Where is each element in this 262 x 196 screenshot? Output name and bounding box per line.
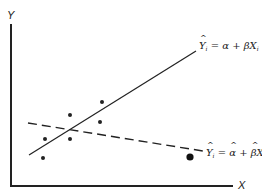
dashed-regression-line: [28, 123, 203, 151]
data-point: [68, 113, 72, 117]
y-hat: Y: [206, 148, 213, 158]
beta-hat: β: [251, 148, 257, 158]
regression-diagram: [0, 0, 262, 196]
dashed-line-equation: Yi = α + βXi: [206, 148, 262, 159]
outlier-point: [186, 153, 193, 160]
alpha-hat: α: [229, 148, 236, 158]
data-points: [41, 100, 194, 161]
y-axis-label: Y: [7, 10, 14, 21]
data-point: [41, 156, 45, 160]
data-point: [68, 137, 72, 141]
data-point: [98, 120, 102, 124]
x-axis-label: X: [238, 180, 245, 191]
data-point: [43, 137, 47, 141]
data-point: [100, 100, 104, 104]
solid-line-equation: Yi = α + βXi: [199, 41, 259, 52]
y-hat: Y: [199, 41, 206, 51]
solid-regression-line: [29, 51, 196, 155]
